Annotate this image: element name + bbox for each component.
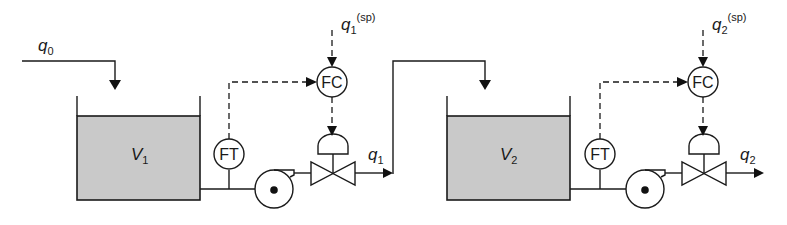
ft-1-signal-arrow-icon <box>306 77 317 87</box>
setpoint-1-arrow-icon <box>327 57 337 67</box>
ft-2-label: FT <box>590 146 610 163</box>
valve-2-right-icon <box>704 162 726 185</box>
ft-1-label: FT <box>219 146 239 163</box>
control-valve-2 <box>682 134 726 185</box>
valve-2-left-icon <box>682 162 704 185</box>
tank-2-inlet-arrow-icon <box>479 80 491 90</box>
flow-controller-1: FC <box>317 67 347 97</box>
pump-1-impeller-icon <box>270 186 278 194</box>
inlet-flow-label: q0 <box>38 36 54 57</box>
valve-1-right-icon <box>333 162 355 185</box>
pump-2-impeller-icon <box>641 186 649 194</box>
inlet-pipe <box>22 61 115 82</box>
process-diagram: q0 V1 FT FC q1(sp) q1 <box>0 0 787 225</box>
fc-2-label: FC <box>692 74 713 91</box>
ft-2-signal-line <box>600 82 679 139</box>
pump-2 <box>626 170 665 208</box>
flow-transmitter-2: FT <box>585 139 615 169</box>
outlet-2-label: q2 <box>740 145 756 166</box>
ft-2-signal-arrow-icon <box>677 77 688 87</box>
inlet-stream-q0 <box>22 61 121 90</box>
fc-1-label: FC <box>321 74 342 91</box>
pump-1 <box>255 170 294 208</box>
outlet-1-label: q1 <box>368 145 384 166</box>
flow-controller-2: FC <box>688 67 718 97</box>
ft-1-signal-line <box>229 82 308 139</box>
control-valve-1 <box>311 134 355 185</box>
valve-1-actuator-icon <box>318 134 348 154</box>
setpoint-2-label: q2(sp) <box>712 11 747 36</box>
flow-transmitter-1: FT <box>214 139 244 169</box>
valve-2-actuator-icon <box>689 134 719 154</box>
outlet-1-arrow-icon <box>383 168 393 178</box>
setpoint-1-label: q1(sp) <box>341 11 376 36</box>
valve-1-left-icon <box>311 162 333 185</box>
outlet-2-arrow-icon <box>754 168 764 178</box>
setpoint-2-arrow-icon <box>698 57 708 67</box>
inlet-arrow-icon <box>109 80 121 90</box>
